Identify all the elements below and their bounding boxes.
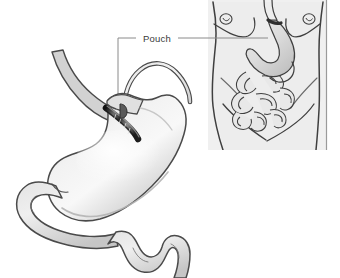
pouch-label: Pouch (143, 33, 171, 44)
figure-root: Pouch (0, 0, 340, 278)
stomach-highlight (76, 130, 164, 190)
small-intestine (108, 231, 190, 278)
main-illustration (17, 50, 190, 278)
inset-panel (208, 0, 327, 150)
gastric-band-illustration: Pouch (0, 0, 340, 278)
